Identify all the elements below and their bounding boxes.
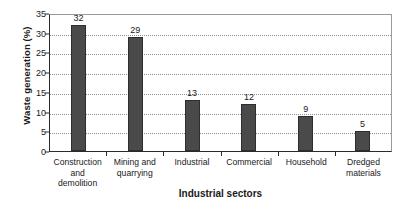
x-category-label-line: materials — [336, 168, 391, 179]
bar-value-label: 5 — [360, 120, 365, 129]
y-tick-mark — [45, 132, 49, 133]
bar-chart-figure: Waste generation (%) 05101520253035 3229… — [0, 0, 404, 208]
y-tick-mark — [45, 92, 49, 93]
bar-series: 3229131295 — [50, 15, 391, 151]
x-category-label-line: Dredged — [336, 157, 391, 168]
bar[interactable]: 9 — [298, 116, 313, 151]
y-tick-mark — [45, 33, 49, 34]
x-category-label-line: Industrial — [164, 157, 219, 168]
bar-slot: 12 — [220, 15, 277, 151]
x-category-label-line: Mining and — [107, 157, 162, 168]
bar[interactable]: 5 — [355, 131, 370, 151]
plot-area: 3229131295 — [49, 14, 392, 152]
bar-slot: 32 — [50, 15, 107, 151]
x-category-label: Constructionand demolition — [49, 157, 106, 189]
x-axis-tick-marks — [49, 152, 392, 156]
x-category-label-line: Household — [279, 157, 334, 168]
bar-slot: 29 — [107, 15, 164, 151]
x-category-label: Dredgedmaterials — [335, 157, 392, 189]
x-tick-mark — [163, 152, 164, 156]
y-axis-tick-labels: 05101520253035 — [22, 14, 46, 152]
x-tick-mark — [221, 152, 222, 156]
x-category-label-line: Commercial — [222, 157, 277, 168]
bar-value-label: 9 — [303, 105, 308, 114]
bar-value-label: 32 — [73, 14, 83, 23]
x-tick-mark — [278, 152, 279, 156]
y-tick-mark — [45, 53, 49, 54]
x-category-label: Industrial — [163, 157, 220, 189]
bar-value-label: 12 — [244, 93, 254, 102]
x-category-label: Commercial — [221, 157, 278, 189]
bar[interactable]: 12 — [241, 104, 256, 151]
x-tick-mark — [106, 152, 107, 156]
x-category-label-line: and demolition — [50, 168, 105, 189]
bar-slot: 13 — [164, 15, 221, 151]
x-tick-mark — [335, 152, 336, 156]
bar[interactable]: 29 — [128, 37, 143, 151]
x-category-label-line: quarrying — [107, 168, 162, 179]
y-tick-mark — [45, 14, 49, 15]
bar-value-label: 29 — [130, 26, 140, 35]
bar-slot: 5 — [334, 15, 391, 151]
y-tick-mark — [45, 152, 49, 153]
y-tick-mark — [45, 112, 49, 113]
bar-slot: 9 — [277, 15, 334, 151]
bar[interactable]: 32 — [71, 25, 86, 151]
bar-value-label: 13 — [187, 89, 197, 98]
y-tick-mark — [45, 73, 49, 74]
x-axis-title: Industrial sectors — [49, 188, 392, 199]
x-axis-category-labels: Constructionand demolitionMining andquar… — [49, 157, 392, 189]
bar[interactable]: 13 — [185, 100, 200, 151]
x-category-label: Household — [278, 157, 335, 189]
x-category-label-line: Construction — [50, 157, 105, 168]
x-category-label: Mining andquarrying — [106, 157, 163, 189]
